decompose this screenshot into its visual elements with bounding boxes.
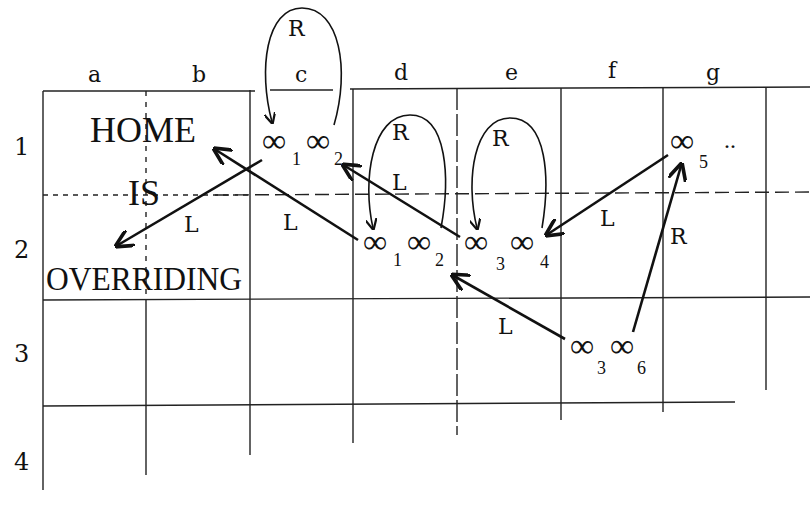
arrow-label-l: L bbox=[498, 314, 513, 339]
row-label-2: 2 bbox=[14, 236, 29, 264]
infinity-symbol: ∞ bbox=[610, 327, 634, 364]
cell-e2-tokens: ∞ 3 ∞ 4 bbox=[464, 223, 549, 274]
col-label-e: e bbox=[505, 60, 518, 85]
infinity-symbol: ∞ bbox=[262, 122, 286, 159]
col-label-d: d bbox=[394, 60, 408, 85]
subscript: 3 bbox=[597, 358, 606, 378]
cell-g1-tokens: ∞ 5 .. bbox=[670, 122, 736, 172]
cell-c1-tokens: ∞ 1 ∞ 2 bbox=[262, 122, 343, 169]
arrow-label-r: R bbox=[288, 16, 306, 41]
subscript: 1 bbox=[393, 250, 402, 270]
col-label-f: f bbox=[608, 58, 618, 83]
infinity-symbol: ∞ bbox=[570, 327, 594, 364]
arrow-label-l: L bbox=[283, 210, 298, 235]
subscript: 2 bbox=[435, 250, 444, 270]
infinity-symbol: ∞ bbox=[306, 122, 330, 159]
subscript: 1 bbox=[292, 149, 301, 169]
diagram-canvas: a b c d e f g 1 2 3 4 HOME IS OVERRIDING… bbox=[0, 0, 810, 505]
infinity-symbol: ∞ bbox=[407, 223, 431, 260]
row-label-4: 4 bbox=[14, 448, 29, 476]
infinity-symbol: ∞ bbox=[510, 223, 534, 260]
arrow-label-r: R bbox=[392, 120, 410, 145]
phrase-word-is: IS bbox=[128, 173, 160, 213]
col-label-g: g bbox=[706, 60, 720, 85]
row-label-3: 3 bbox=[14, 340, 29, 368]
cell-f3-tokens: ∞ 3 ∞ 6 bbox=[570, 327, 646, 378]
arrow-label-r: R bbox=[670, 224, 688, 249]
infinity-symbol: ∞ bbox=[363, 223, 387, 260]
phrase-word-overriding: OVERRIDING bbox=[46, 260, 242, 297]
subscript: 6 bbox=[637, 358, 646, 378]
arrow-f3-to-g1 bbox=[633, 166, 681, 332]
arrow-label-l: L bbox=[600, 206, 615, 231]
infinity-symbol: ∞ bbox=[670, 122, 694, 159]
col-label-b: b bbox=[192, 62, 206, 87]
arrow-label-r: R bbox=[492, 126, 510, 151]
row-labels: 1 2 3 4 bbox=[14, 133, 29, 476]
phrase-word-home: HOME bbox=[90, 110, 196, 150]
cell-d2-tokens: ∞ 1 ∞ 2 bbox=[363, 223, 444, 270]
subscript: 4 bbox=[540, 252, 549, 272]
subscript: 5 bbox=[699, 152, 708, 172]
subscript: 3 bbox=[496, 254, 505, 274]
loop-arrow-e2 bbox=[472, 118, 546, 228]
row-label-1: 1 bbox=[14, 133, 29, 161]
col-label-a: a bbox=[88, 62, 101, 87]
phrase: HOME IS OVERRIDING bbox=[46, 110, 242, 297]
arrow-label-l: L bbox=[184, 212, 199, 237]
subscript: 2 bbox=[334, 149, 343, 169]
infinity-symbol: ∞ bbox=[464, 223, 488, 260]
ellipsis: .. bbox=[724, 127, 736, 153]
arrow-label-l: L bbox=[392, 170, 407, 195]
column-labels: a b c d e f g bbox=[88, 58, 720, 87]
col-label-c: c bbox=[295, 62, 307, 87]
